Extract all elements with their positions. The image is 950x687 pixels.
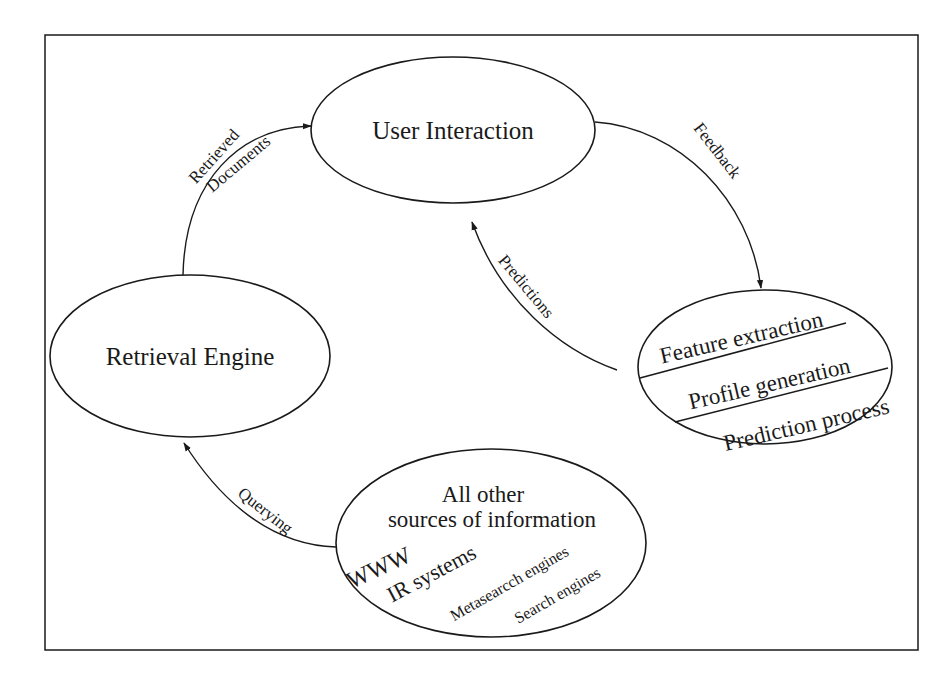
edge-feedback-path [595,122,761,288]
profiler-feature-extraction: Feature extraction [657,307,826,369]
node-retrieval-engine: Retrieval Engine [50,275,330,437]
edge-querying-label: Querying [234,483,297,538]
sources-ellipse [336,449,646,637]
diagram-canvas: User Interaction Retrieval Engine Featur… [0,0,950,687]
user-interaction-label: User Interaction [372,117,534,144]
edge-querying: Querying [184,443,336,547]
node-sources: All other sources of information WWW IR … [336,449,646,637]
edge-retrieved-documents: Retrieved Documents [183,125,311,275]
profiler-prediction-process: Prediction process [721,393,892,455]
node-user-interaction: User Interaction [311,57,595,203]
edge-feedback: Feedback [595,119,761,288]
retrieval-engine-label: Retrieval Engine [106,343,275,370]
edge-predictions: Predictions [472,222,617,370]
sources-title-line1: All other [442,482,525,507]
node-profiler: Feature extraction Profile generation Pr… [638,290,892,456]
edge-feedback-label: Feedback [690,119,745,182]
sources-title-line2: sources of information [388,507,597,532]
